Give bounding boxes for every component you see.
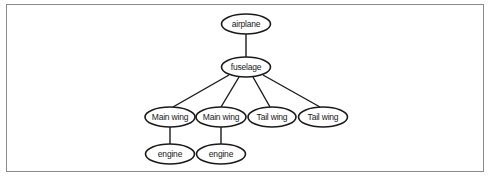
edge-fuselage-to-main-wing-2 <box>221 77 239 107</box>
node-engine-2: engine <box>197 144 246 164</box>
node-airplane: airplane <box>222 14 271 34</box>
node-tail-wing-1: Tail wing <box>248 107 296 127</box>
edge-fuselage-to-main-wing-1 <box>173 75 229 107</box>
node-label: engine <box>158 149 183 159</box>
node-label: Main wing <box>203 112 240 122</box>
node-engine-1: engine <box>146 144 195 164</box>
node-tail-wing-2: Tail wing <box>299 107 348 127</box>
edges-layer <box>170 34 320 144</box>
node-fuselage: fuselage <box>222 57 271 77</box>
node-label: airplane <box>232 19 261 29</box>
edge-fuselage-to-tail-wing-1 <box>253 77 270 107</box>
node-label: Tail wing <box>257 112 288 122</box>
airplane-tree-diagram: airplanefuselageMain wingMain wingTail w… <box>0 0 491 179</box>
node-main-wing-1: Main wing <box>145 107 195 127</box>
node-label: engine <box>209 149 234 159</box>
node-main-wing-2: Main wing <box>196 107 246 127</box>
node-label: Main wing <box>152 112 189 122</box>
edge-fuselage-to-tail-wing-2 <box>263 75 320 107</box>
node-label: Tail wing <box>308 112 339 122</box>
node-label: fuselage <box>231 62 262 72</box>
